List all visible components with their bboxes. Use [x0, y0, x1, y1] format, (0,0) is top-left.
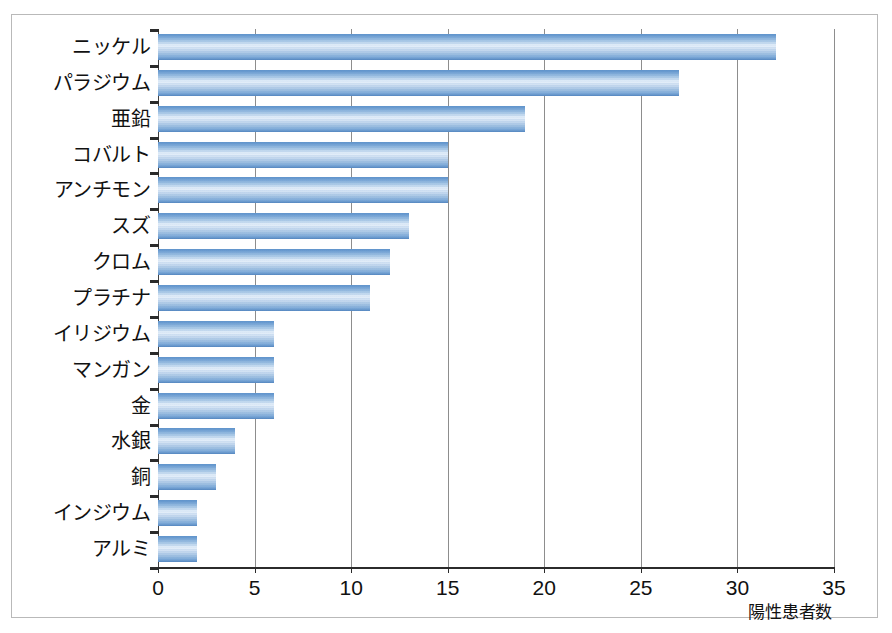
bar: [158, 106, 525, 132]
y-axis-label: プラチナ: [20, 288, 150, 308]
y-axis-label: 銅: [20, 467, 150, 487]
y-axis-tick: [150, 137, 159, 140]
bar: [158, 500, 197, 526]
bar: [158, 249, 390, 275]
y-axis-tick: [150, 352, 159, 355]
y-axis-label: 金: [20, 396, 150, 416]
y-axis-tick: [150, 567, 159, 570]
chart-figure: ニッケルパラジウム亜鉛コバルトアンチモンスズクロムプラチナイリジウムマンガン金水…: [11, 14, 878, 618]
bar: [158, 321, 274, 347]
x-axis-tick: [737, 567, 738, 573]
gridline-25: [641, 29, 642, 567]
x-axis-line: [158, 567, 835, 569]
x-axis-tick-label: 25: [629, 577, 652, 598]
y-axis-label: アンチモン: [20, 180, 150, 200]
bar: [158, 142, 448, 168]
y-axis-label: インジウム: [20, 503, 150, 523]
bar: [158, 357, 274, 383]
y-axis-label: マンガン: [20, 360, 150, 380]
y-axis-label: イリジウム: [20, 324, 150, 344]
gridline-30: [737, 29, 738, 567]
bar: [158, 70, 679, 96]
y-axis-label: コバルト: [20, 145, 150, 165]
y-axis-tick: [150, 459, 159, 462]
x-axis-tick-label: 35: [822, 577, 845, 598]
plot-area: [158, 29, 834, 567]
y-axis-tick: [150, 531, 159, 534]
gridline-20: [544, 29, 545, 567]
y-axis-label: スズ: [20, 216, 150, 236]
y-axis-tick: [150, 316, 159, 319]
y-axis-tick: [150, 424, 159, 427]
bar: [158, 285, 370, 311]
y-axis-tick: [150, 172, 159, 175]
y-axis-label: クロム: [20, 252, 150, 272]
x-axis-tick-label: 20: [533, 577, 556, 598]
x-axis-tick: [641, 567, 642, 573]
y-axis-tick: [150, 65, 159, 68]
bar: [158, 536, 197, 562]
x-axis-tick-label: 5: [249, 577, 261, 598]
y-axis-tick: [150, 244, 159, 247]
y-axis-tick: [150, 101, 159, 104]
y-axis-label: 水銀: [20, 431, 150, 451]
bar: [158, 464, 216, 490]
x-axis-tick: [544, 567, 545, 573]
x-axis-tick-label: 0: [152, 577, 164, 598]
y-axis-label: パラジウム: [20, 73, 150, 93]
x-axis-tick-label: 15: [436, 577, 459, 598]
bar: [158, 428, 235, 454]
y-axis-label: 亜鉛: [20, 109, 150, 129]
bar: [158, 34, 776, 60]
y-axis-label: ニッケル: [20, 37, 150, 57]
y-axis-tick: [150, 388, 159, 391]
x-axis-tick: [255, 567, 256, 573]
x-axis-tick-label: 10: [339, 577, 362, 598]
gridline-35: [834, 29, 835, 567]
x-axis-tick: [834, 567, 835, 573]
y-axis-tick: [150, 495, 159, 498]
y-axis-tick: [150, 208, 159, 211]
bar: [158, 393, 274, 419]
y-axis-tick: [150, 29, 159, 32]
y-axis-label: アルミ: [20, 539, 150, 559]
y-axis-category-labels: ニッケルパラジウム亜鉛コバルトアンチモンスズクロムプラチナイリジウムマンガン金水…: [16, 29, 150, 567]
x-axis-tick: [448, 567, 449, 573]
x-axis-tick-label: 30: [726, 577, 749, 598]
x-axis-title: 陽性患者数: [748, 604, 832, 621]
bar: [158, 213, 409, 239]
x-axis-tick: [351, 567, 352, 573]
y-axis-tick: [150, 280, 159, 283]
bar: [158, 177, 448, 203]
